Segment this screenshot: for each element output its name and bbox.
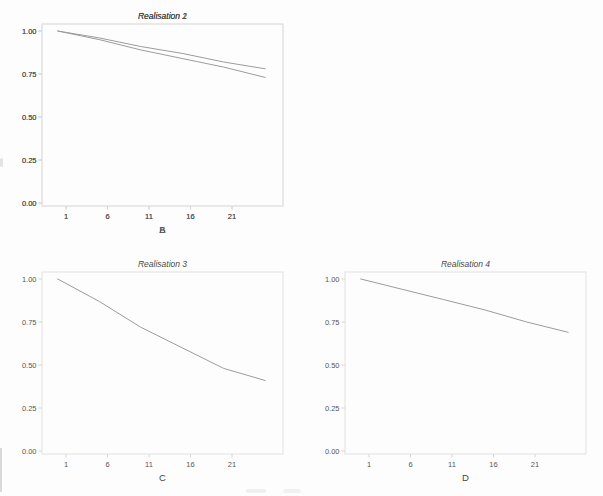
plot-frame [42,272,283,454]
x-axis-label: C [159,472,166,483]
realisations-figure: Realisation 10.000.250.500.751.001611162… [0,0,603,496]
chart-title: Realisation 2 [138,11,187,21]
y-tick-label: 0.25 [22,156,37,165]
realisation-line [58,279,266,381]
x-tick-label: 21 [228,460,236,469]
y-tick-label: 0.75 [325,318,340,327]
y-tick-label: 1.00 [325,275,340,284]
y-tick-label: 1.00 [22,27,37,36]
realisation-3-chart: Realisation 30.000.250.500.751.001611162… [0,248,301,496]
chart-title: Realisation 3 [138,259,187,269]
x-tick-label: 1 [367,460,371,469]
realisation-line [58,31,266,77]
x-tick-label: 1 [64,212,68,221]
y-tick-label: 0.50 [22,113,37,122]
y-tick-label: 0.25 [22,404,37,413]
plot-frame [42,24,283,206]
realisation-line [361,279,569,332]
plot-frame [345,272,586,454]
x-tick-label: 11 [145,460,153,469]
x-axis-label: B [159,224,165,235]
y-tick-label: 0.00 [22,199,37,208]
chart-title: Realisation 4 [441,259,490,269]
x-tick-label: 21 [228,212,236,221]
y-tick-label: 0.25 [325,404,340,413]
realisation-2-chart: Realisation 20.000.250.500.751.001611162… [0,0,301,248]
x-tick-label: 6 [105,460,109,469]
subplot-realisation-3: Realisation 30.000.250.500.751.001611162… [0,248,301,496]
x-tick-label: 6 [408,460,412,469]
y-tick-label: 0.75 [22,318,37,327]
realisation-4-chart: Realisation 40.000.250.500.751.001611162… [303,248,603,496]
x-tick-label: 21 [531,460,539,469]
x-tick-label: 11 [448,460,456,469]
y-tick-label: 0.50 [22,361,37,370]
y-tick-label: 0.75 [22,70,37,79]
subplot-realisation-4: Realisation 40.000.250.500.751.001611162… [303,248,603,496]
x-tick-label: 1 [64,460,68,469]
x-tick-label: 16 [186,212,194,221]
subplot-realisation-2: Realisation 20.000.250.500.751.001611162… [0,0,301,248]
y-tick-label: 0.00 [22,447,37,456]
y-tick-label: 0.50 [325,361,340,370]
y-tick-label: 1.00 [22,275,37,284]
x-tick-label: 6 [105,212,109,221]
x-axis-label: D [462,472,469,483]
x-tick-label: 16 [186,460,194,469]
x-tick-label: 16 [489,460,497,469]
x-tick-label: 11 [145,212,153,221]
y-tick-label: 0.00 [325,447,340,456]
